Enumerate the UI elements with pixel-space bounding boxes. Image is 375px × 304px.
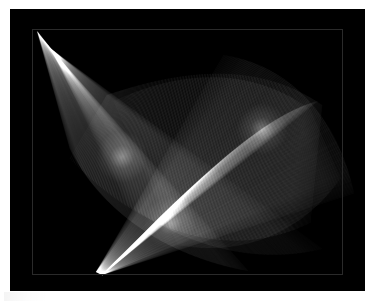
figure-caption (0, 292, 375, 304)
plot-panel (10, 9, 365, 291)
figure-root (0, 0, 375, 304)
envelope-caustic-canvas (10, 9, 365, 291)
